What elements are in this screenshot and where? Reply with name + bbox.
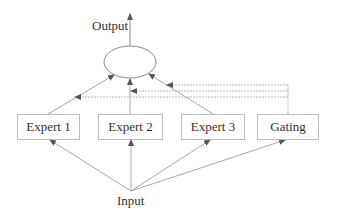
diagram-canvas xyxy=(0,0,338,217)
expert3-label: Expert 3 xyxy=(191,119,235,135)
output-label: Output xyxy=(92,19,128,32)
expert2-box: Expert 2 xyxy=(98,114,163,140)
edge-input-expert3 xyxy=(131,140,210,191)
combiner-ellipse xyxy=(104,46,156,78)
gating-box: Gating xyxy=(257,114,319,140)
expert1-label: Expert 1 xyxy=(26,119,70,135)
edge-expert1-combiner xyxy=(48,75,114,114)
expert3-box: Expert 3 xyxy=(181,114,245,140)
expert2-label: Expert 2 xyxy=(108,119,152,135)
edge-input-gating xyxy=(131,140,285,191)
input-label: Input xyxy=(117,194,144,207)
gating-label: Gating xyxy=(270,119,305,135)
expert1-box: Expert 1 xyxy=(17,114,80,140)
edge-expert3-combiner xyxy=(149,74,213,114)
edge-input-expert1 xyxy=(50,140,131,191)
